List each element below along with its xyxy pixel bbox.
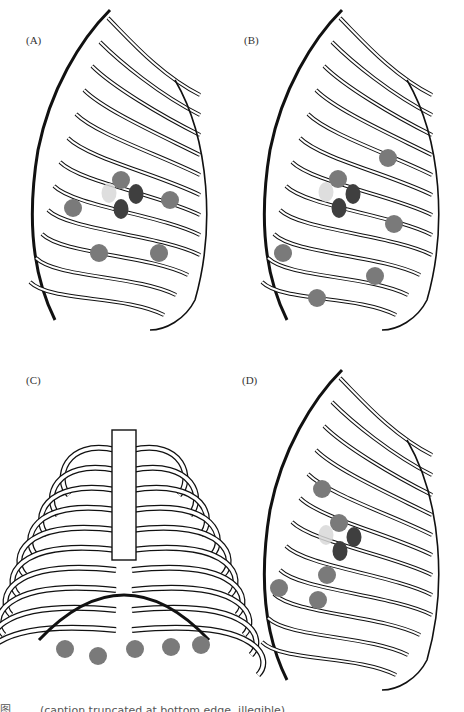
marker-dot-dark	[129, 184, 144, 204]
marker-dot-dark	[333, 541, 348, 561]
marker-dot-light	[319, 525, 334, 545]
marker-dot-mid	[385, 215, 403, 233]
marker-dot-mid	[64, 199, 82, 217]
marker-dot-mid	[192, 636, 210, 654]
anterior-rib-cage	[0, 430, 263, 675]
marker-dot-mid	[112, 171, 130, 189]
marker-dot-mid	[90, 244, 108, 262]
rib-cage-illustrations	[0, 0, 464, 712]
marker-dot-mid	[89, 647, 107, 665]
marker-dot-mid	[270, 579, 288, 597]
marker-dot-mid	[318, 566, 336, 584]
marker-dot-mid	[162, 638, 180, 656]
marker-dot-mid	[379, 149, 397, 167]
marker-dot-mid	[56, 640, 74, 658]
marker-dot-mid	[274, 244, 292, 262]
marker-dot-mid	[308, 289, 326, 307]
marker-dot-dark	[332, 198, 347, 218]
marker-dot-mid	[313, 480, 331, 498]
marker-dot-mid	[150, 244, 168, 262]
marker-dot-mid	[330, 514, 348, 532]
marker-dot-mid	[329, 170, 347, 188]
marker-dot-dark	[346, 184, 361, 204]
marker-dot-light	[102, 183, 117, 203]
lateral-rib-cage	[30, 10, 207, 330]
lateral-rib-cage	[262, 10, 439, 330]
marker-dot-mid	[161, 191, 179, 209]
figure-caption: 图 …… (caption truncated at bottom edge, …	[0, 700, 464, 712]
marker-dot-light	[319, 182, 334, 202]
marker-dot-dark	[347, 527, 362, 547]
marker-dot-mid	[126, 640, 144, 658]
marker-dot-mid	[366, 267, 384, 285]
marker-dot-dark	[114, 199, 129, 219]
marker-dot-mid	[309, 591, 327, 609]
